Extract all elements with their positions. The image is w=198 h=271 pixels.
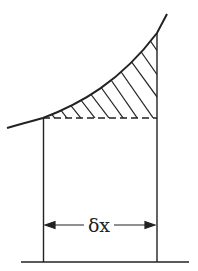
function-curve <box>7 14 167 128</box>
arrowhead-left-icon <box>45 222 55 229</box>
strip-area-diagram: δx <box>0 0 198 271</box>
width-label: δx <box>88 214 110 236</box>
arrowhead-right-icon <box>145 222 155 229</box>
hatched-region <box>40 16 172 122</box>
